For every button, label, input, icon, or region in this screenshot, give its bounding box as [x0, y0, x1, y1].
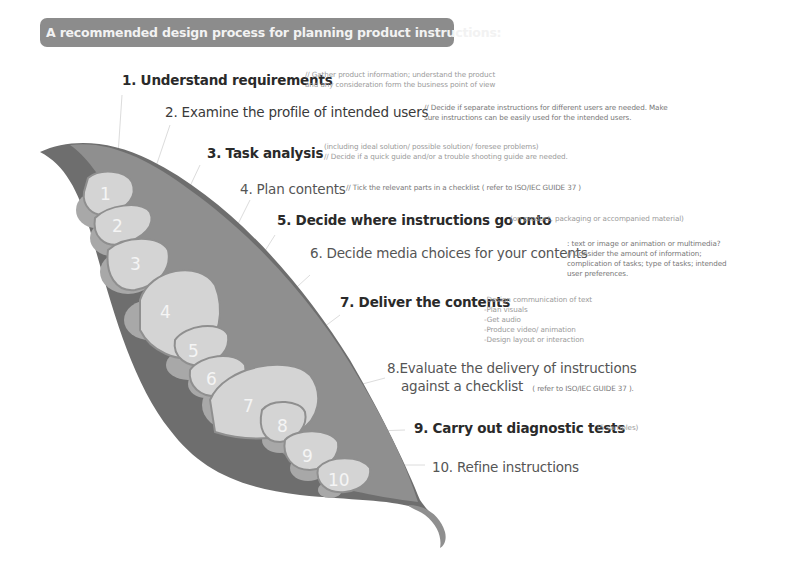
step-2-title: 2. Examine the profile of intended users [165, 104, 428, 120]
step-10: 10. Refine instructions [432, 457, 579, 476]
step-8: 8.Evaluate the delivery of instructions … [387, 360, 637, 395]
step-7-notes: -Design communication of text -Plan visu… [484, 295, 592, 345]
svg-text:8: 8 [277, 416, 288, 436]
step-9-notes: (5 samples) [597, 423, 638, 433]
step-1: 1. Understand requirements [122, 70, 333, 89]
step-8-notes: ( refer to ISO/IEC GUIDE 37 ). [532, 384, 634, 393]
step-5-notes: (on product, packaging or accompanied ma… [510, 214, 684, 224]
step-3-title: 3. Task analysis [207, 145, 323, 161]
svg-text:10: 10 [328, 470, 350, 490]
step-1-notes: // Gather product information; understan… [305, 70, 495, 90]
svg-text:1: 1 [100, 184, 111, 204]
step-10-title: 10. Refine instructions [432, 459, 579, 475]
svg-text:9: 9 [302, 446, 313, 466]
step-9: 9. Carry out diagnostic tests [414, 418, 625, 437]
svg-text:3: 3 [130, 254, 141, 274]
svg-text:6: 6 [206, 369, 217, 389]
step-4-notes: // Tick the relevant parts in a checklis… [346, 183, 581, 193]
step-6-notes: : text or image or animation or multimed… [567, 239, 727, 279]
step-6-title: 6. Decide media choices for your content… [310, 245, 588, 261]
step-2-notes: // Decide if separate instructions for d… [424, 103, 668, 123]
step-4-title: 4. Plan contents [240, 181, 346, 197]
step-8-title-line2: against a checklist [401, 378, 523, 394]
svg-text:2: 2 [112, 216, 123, 236]
step-8-title-line1: 8.Evaluate the delivery of instructions [387, 360, 637, 376]
svg-text:5: 5 [188, 341, 199, 361]
step-9-title: 9. Carry out diagnostic tests [414, 420, 625, 436]
step-2: 2. Examine the profile of intended users [165, 102, 428, 121]
step-3: 3. Task analysis [207, 143, 323, 162]
svg-text:4: 4 [160, 302, 171, 322]
step-3-notes: (including ideal solution/ possible solu… [324, 142, 568, 162]
step-6: 6. Decide media choices for your content… [310, 243, 588, 262]
step-4: 4. Plan contents [240, 179, 346, 198]
step-1-title: 1. Understand requirements [122, 72, 333, 88]
svg-text:7: 7 [243, 396, 254, 416]
